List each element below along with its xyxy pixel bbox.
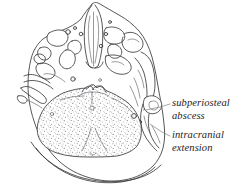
mastoid-abscess-region [139,96,162,151]
label-subperiosteal-abscess-line2: abscess [172,110,230,123]
label-subperiosteal-abscess: subperiosteal abscess [172,97,230,122]
left-facial-sinuses [34,27,83,83]
label-subperiosteal-abscess-line1: subperiosteal [172,97,230,110]
nasal-cavity [84,5,103,68]
skull-base-drawing [0,0,246,189]
left-temporal-zygoma [17,75,53,109]
label-intracranial-extension: intracranial extension [172,129,224,154]
label-intracranial-extension-line1: intracranial [172,129,224,142]
posterior-fossa-stippled [36,84,146,160]
leader-intracranial-extension [150,124,170,136]
label-intracranial-extension-line2: extension [172,142,224,155]
anatomical-figure: subperiosteal abscess intracranial exten… [0,0,246,189]
foramina [71,77,102,82]
